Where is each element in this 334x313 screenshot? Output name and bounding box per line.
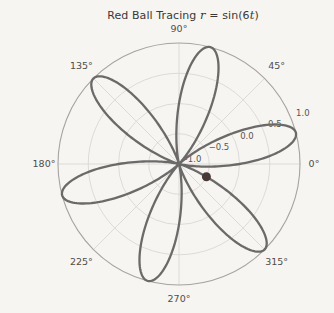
theta-tick-label: 135° — [70, 60, 93, 71]
theta-tick-label: 0° — [309, 158, 320, 169]
theta-tick-label: 315° — [265, 256, 288, 267]
theta-tick-label: 90° — [171, 23, 188, 34]
theta-tick-label: 225° — [70, 256, 93, 267]
polar-figure: Red Ball Tracing r = sin(6t) 0°45°90°135… — [0, 0, 334, 313]
polar-plot-canvas: 0°45°90°135°180°225°270°315°−1.0−0.50.00… — [0, 0, 334, 313]
theta-tick-label: 45° — [268, 60, 285, 71]
theta-tick-label: 180° — [33, 158, 56, 169]
red-ball — [202, 172, 211, 181]
theta-tick-label: 270° — [168, 293, 191, 304]
r-tick-label: 0.0 — [240, 131, 254, 141]
r-tick-label: 1.0 — [296, 108, 310, 118]
r-tick-label: −0.5 — [209, 142, 230, 152]
